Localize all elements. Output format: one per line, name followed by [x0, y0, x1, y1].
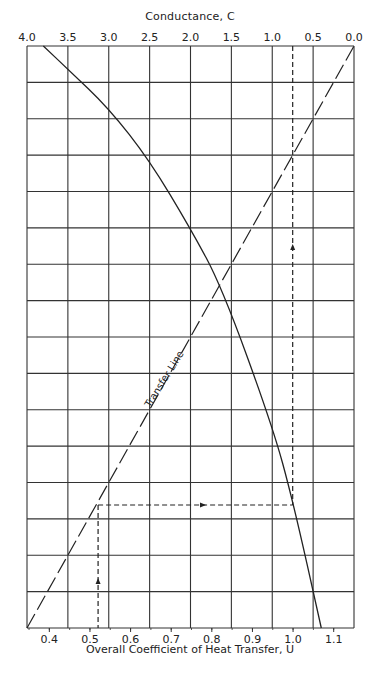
bottom-axis-title: Overall Coefficient of Heat Transfer, U [0, 643, 380, 656]
top-axis-tick: 0.0 [345, 31, 363, 44]
chart-plot: 4.03.53.02.52.01.51.00.50.00.40.50.60.70… [0, 0, 380, 674]
arrow-right-icon [200, 503, 206, 508]
top-axis-tick: 0.5 [304, 31, 322, 44]
top-axis-tick: 2.0 [182, 31, 200, 44]
arrow-up-icon [290, 244, 295, 250]
top-axis-tick: 2.5 [141, 31, 159, 44]
top-axis-tick: 4.0 [18, 31, 36, 44]
top-axis-tick: 3.5 [59, 31, 77, 44]
transfer-line-label: Transfer Line [142, 349, 186, 410]
top-axis-tick: 1.0 [264, 31, 282, 44]
top-axis-tick: 3.0 [100, 31, 118, 44]
top-axis-tick: 1.5 [223, 31, 241, 44]
arrow-up-icon [96, 578, 101, 584]
